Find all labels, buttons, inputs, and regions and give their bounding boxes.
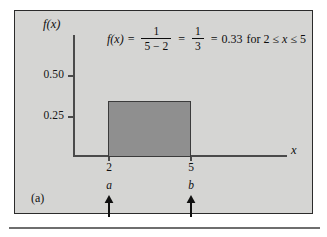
figure-root: 0.50 0.25 f(x) x 2 5 a b: [0, 0, 327, 237]
plot-area: 0.50 0.25 f(x) x 2 5 a b: [15, 11, 312, 213]
up-arrow-icon-b: [184, 195, 198, 217]
equation-fraction-1-numerator: 1: [150, 25, 162, 38]
x-symbol-label-b: b: [179, 179, 203, 191]
equation-equals-1: =: [128, 33, 135, 45]
bottom-divider: [9, 227, 320, 229]
y-tick-mark-0-50: [68, 75, 75, 77]
y-tick-label-0-50: 0.50: [20, 68, 64, 80]
up-arrow-icon-a: [102, 195, 116, 217]
equation-fraction-2-denominator: 3: [192, 39, 204, 52]
y-tick-label-0-25: 0.25: [20, 109, 64, 121]
y-axis-label: f(x): [43, 17, 60, 32]
uniform-density-rectangle: [108, 101, 191, 157]
y-tick-mark-0-25: [68, 116, 75, 118]
equation-fraction-2: 1 3: [192, 25, 204, 52]
equation-lhs: f(x): [107, 33, 124, 45]
x-tick-label-a: 2: [97, 161, 121, 173]
x-axis-label: x: [291, 143, 297, 158]
density-equation: f(x) = 1 5 − 2 = 1 3 = 0.33 for 2 ≤ x ≤ …: [107, 25, 306, 52]
x-symbol-label-a: a: [97, 179, 121, 191]
equation-condition: for 2 ≤ x ≤ 5: [247, 33, 307, 45]
equation-equals-3: =: [211, 33, 218, 45]
equation-fraction-2-numerator: 1: [192, 25, 204, 38]
x-tick-label-b: 5: [179, 161, 203, 173]
figure-panel-frame: 0.50 0.25 f(x) x 2 5 a b: [14, 10, 313, 214]
equation-fraction-1: 1 5 − 2: [141, 25, 171, 52]
equation-value: 0.33: [222, 33, 243, 45]
y-axis: [73, 35, 75, 157]
panel-label: (a): [31, 191, 44, 206]
equation-equals-2: =: [178, 33, 185, 45]
equation-fraction-1-denominator: 5 − 2: [141, 39, 171, 52]
